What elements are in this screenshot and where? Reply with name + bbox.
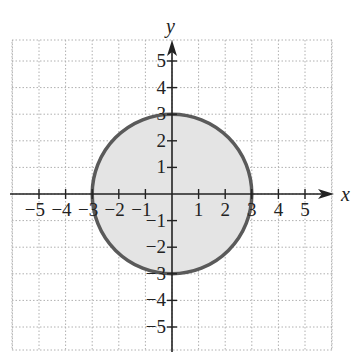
y-tick-label: 1 [157, 156, 167, 177]
x-tick-label: −5 [25, 199, 45, 220]
x-axis-label: x [340, 183, 350, 205]
x-tick-label: 3 [247, 199, 257, 220]
chart-figure: −5−4−3−2−112345−5−4−3−2−112345 x y [0, 0, 359, 363]
x-tick-label: −4 [51, 199, 72, 220]
x-tick-label: 5 [300, 199, 310, 220]
y-axis-label: y [164, 15, 175, 38]
y-tick-label: −4 [146, 289, 167, 310]
y-tick-label: 4 [157, 77, 167, 98]
y-tick-label: 5 [157, 50, 167, 71]
x-tick-label: 4 [274, 199, 284, 220]
y-tick-label: −2 [146, 236, 166, 257]
y-tick-label: −5 [146, 316, 166, 337]
axes [10, 40, 334, 352]
y-tick-label: −1 [146, 210, 166, 231]
x-tick-label: −3 [78, 199, 98, 220]
x-tick-label: 1 [194, 199, 204, 220]
x-tick-label: 2 [220, 199, 230, 220]
y-tick-label: −3 [146, 263, 166, 284]
y-tick-label: 3 [157, 103, 167, 124]
x-tick-label: −2 [105, 199, 125, 220]
y-tick-label: 2 [157, 130, 167, 151]
